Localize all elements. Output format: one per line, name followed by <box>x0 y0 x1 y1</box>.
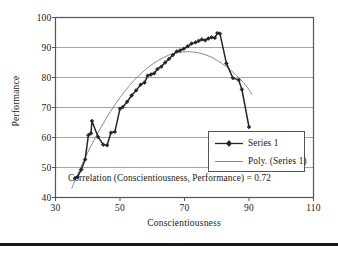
x-tick-label: 70 <box>172 203 198 213</box>
x-tick-label: 30 <box>43 203 69 213</box>
y-tick-label: 50 <box>28 163 52 173</box>
x-tick-label: 50 <box>107 203 133 213</box>
plain-line-marker-icon <box>214 152 244 171</box>
legend-item-series-1: Series 1 <box>209 134 306 153</box>
y-tick-label: 90 <box>28 43 52 53</box>
y-tick-label: 40 <box>28 193 52 203</box>
legend-label-poly-series-1: Poly. (Series 1) <box>248 156 307 166</box>
y-tick-label: 60 <box>28 133 52 143</box>
bottom-horizontal-rule <box>0 243 338 246</box>
y-tick-label: 70 <box>28 103 52 113</box>
legend-label-series-1: Series 1 <box>248 138 279 148</box>
correlation-annotation: Correlation (Conscientiousness, Performa… <box>68 173 271 183</box>
x-tick-label: 90 <box>236 203 262 213</box>
x-axis-title: Conscientiousness <box>55 218 313 228</box>
figure-container: 100908070605040 30507090110 Performance … <box>0 0 338 254</box>
y-tick-label: 100 <box>28 13 52 23</box>
x-tick-label: 110 <box>301 203 327 213</box>
chart-plot-area: 100908070605040 30507090110 Performance … <box>0 0 338 236</box>
diamond-line-marker-icon <box>214 134 244 153</box>
y-tick-label: 80 <box>28 73 52 83</box>
y-axis-title: Performance <box>11 61 21 141</box>
legend-item-poly-series-1: Poly. (Series 1) <box>209 152 306 171</box>
chart-legend: Series 1 Poly. (Series 1) <box>208 131 305 172</box>
